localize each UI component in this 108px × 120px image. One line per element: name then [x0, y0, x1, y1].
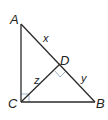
segment-label-y: y	[80, 72, 88, 84]
altitude-cd	[21, 64, 60, 102]
vertex-label-a: A	[9, 12, 19, 27]
segment-label-x: x	[42, 32, 49, 44]
vertex-label-c: C	[8, 96, 18, 111]
vertex-label-b: B	[96, 96, 105, 111]
vertex-label-d: D	[60, 53, 69, 68]
right-angle-mark-d	[55, 71, 66, 77]
segment-label-z: z	[33, 74, 40, 86]
triangle-diagram: A C B D x y z	[0, 0, 108, 120]
